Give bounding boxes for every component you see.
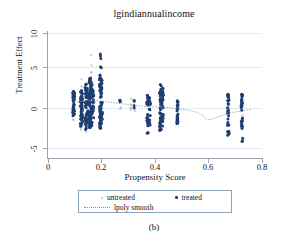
treated-point [226, 106, 229, 109]
treated-point [161, 93, 164, 96]
treated-point [100, 88, 103, 91]
x-tick-label-0.8: 0.8 [247, 162, 277, 172]
treated-point [90, 121, 93, 124]
treated-point [86, 87, 89, 90]
untreated-point [90, 54, 92, 56]
legend-item-treated[interactable]: treated [175, 193, 202, 202]
x-tick-label-0.2: 0.2 [86, 162, 116, 172]
treated-point [227, 133, 230, 136]
treated-point [161, 124, 164, 127]
legend-label-lpoly-smooth: lpoly smooth [114, 203, 153, 212]
treated-point [240, 119, 243, 122]
treated-point [161, 96, 164, 99]
treated-point [80, 95, 83, 98]
untreated-point [80, 85, 82, 87]
treated-point [160, 100, 163, 103]
treated-point [86, 89, 89, 92]
treated-point [99, 52, 102, 55]
treated-point [91, 101, 94, 104]
figure-container: lgindiannualincome 10 5 0 -5 Treatment E… [0, 0, 308, 245]
figure-caption: (b) [0, 222, 308, 232]
treated-point [146, 119, 149, 122]
treated-point [176, 122, 179, 125]
treated-point [133, 100, 136, 103]
treated-point [89, 77, 92, 80]
treated-point [158, 122, 161, 125]
treated-point [81, 92, 84, 95]
treated-point [240, 98, 243, 101]
untreated-point [120, 106, 122, 108]
treated-points-layer [71, 52, 244, 143]
treated-point [80, 113, 83, 116]
treated-point [149, 114, 152, 117]
y-tick-label-0: 0 [29, 101, 39, 117]
treated-point [92, 94, 95, 97]
treated-point [85, 127, 88, 130]
treated-point [89, 124, 92, 127]
treated-point [158, 125, 161, 128]
treated-point [84, 104, 87, 107]
untreated-point [85, 131, 87, 133]
x-tick-label-0: 0 [33, 162, 63, 172]
untreated-point [72, 119, 74, 121]
untreated-point [130, 98, 132, 100]
y-tick-0 [43, 108, 47, 109]
chart-legend: untreated treated lpoly smooth [78, 190, 232, 213]
treated-point [241, 140, 244, 143]
legend-item-untreated[interactable]: untreated [101, 193, 135, 202]
treated-point [148, 96, 151, 99]
treated-point [101, 113, 104, 116]
untreated-point [91, 64, 93, 66]
treated-point [89, 118, 92, 121]
dotted-line-icon [84, 207, 110, 208]
treated-point [240, 109, 243, 112]
treated-point [100, 107, 103, 110]
treated-point [226, 130, 229, 133]
x-tick-label-0.4: 0.4 [140, 162, 170, 172]
treated-point [99, 57, 102, 60]
treated-point [100, 95, 103, 98]
y-tick-label-10: 10 [29, 26, 39, 42]
treated-point [80, 123, 83, 126]
y-tick-label-5: 5 [29, 60, 39, 76]
treated-point [149, 124, 152, 127]
treated-marker-icon [175, 196, 178, 199]
treated-point [158, 128, 161, 131]
untreated-marker-icon [101, 197, 103, 199]
x-tick-label-0.6: 0.6 [193, 162, 223, 172]
treated-point [161, 88, 164, 91]
treated-point [227, 114, 230, 117]
treated-point [73, 98, 76, 101]
untreated-point [91, 71, 93, 73]
y-tick-5 [43, 67, 47, 68]
legend-label-treated: treated [182, 193, 202, 202]
treated-point [100, 121, 103, 124]
treated-point [92, 116, 95, 119]
treated-point [226, 117, 229, 120]
treated-point [227, 124, 230, 127]
untreated-point [80, 78, 82, 80]
treated-point [91, 89, 94, 92]
treated-point [176, 117, 179, 120]
treated-point [241, 127, 244, 130]
legend-item-lpoly-smooth[interactable]: lpoly smooth [84, 203, 153, 212]
treated-point [80, 118, 83, 121]
treated-point [101, 79, 104, 82]
treated-point [240, 93, 243, 96]
treated-point [241, 137, 244, 140]
treated-point [176, 115, 179, 118]
untreated-point [241, 114, 243, 116]
treated-point [161, 115, 164, 118]
treated-point [119, 100, 122, 103]
treated-point [80, 108, 83, 111]
treated-point [148, 119, 151, 122]
treated-point [148, 108, 151, 111]
treated-point [98, 125, 101, 128]
page-title: lgindiannualincome [0, 8, 308, 19]
treated-point [146, 113, 149, 116]
treated-point [149, 102, 152, 105]
treated-point [100, 82, 103, 85]
treated-point [91, 104, 94, 107]
legend-label-untreated: untreated [107, 193, 135, 202]
treated-point [147, 131, 150, 134]
